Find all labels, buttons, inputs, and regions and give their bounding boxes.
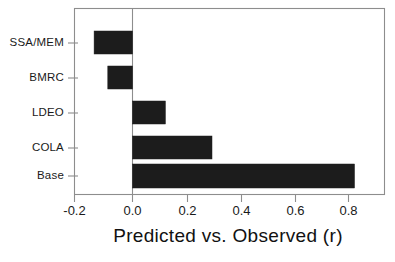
bar-bmrc: [108, 66, 133, 89]
bar-ldeo: [133, 101, 166, 124]
x-axis-title: Predicted vs. Observed (r): [113, 225, 343, 246]
x-tick-label-neg-0-2: -0.2: [63, 203, 85, 218]
y-axis-label-base: Base: [37, 169, 64, 181]
bar-cola: [133, 136, 213, 159]
chart-canvas: SSA/MEM BMRC LDEO COLA Base -0.2 0.0 0.2…: [0, 0, 395, 262]
y-axis-label-ssa-mem: SSA/MEM: [10, 36, 64, 48]
x-tick-label-0-2: 0.2: [178, 203, 196, 218]
x-tick-label-0-6: 0.6: [286, 203, 304, 218]
y-axis-label-cola: COLA: [32, 141, 64, 153]
x-tick-label-0-4: 0.4: [232, 203, 250, 218]
x-tick-marks: [75, 195, 349, 202]
y-axis-label-ldeo: LDEO: [32, 106, 64, 118]
bar-base: [133, 164, 355, 188]
y-axis-label-bmrc: BMRC: [29, 71, 64, 83]
x-tick-label-0-8: 0.8: [339, 203, 357, 218]
bar-chart-figure: SSA/MEM BMRC LDEO COLA Base -0.2 0.0 0.2…: [0, 0, 395, 262]
x-tick-label-0-0: 0.0: [123, 203, 141, 218]
bar-ssa-mem: [94, 31, 132, 54]
